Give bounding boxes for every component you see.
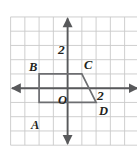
vertex-label-a: A — [30, 118, 39, 132]
figure-canvas: 2 2 O A B C D — [0, 0, 137, 163]
vertex-label-d: D — [98, 104, 108, 118]
vertex-label-b: B — [28, 60, 37, 74]
coordinate-plane-figure: 2 2 O A B C D — [0, 0, 137, 163]
vertex-label-c: C — [84, 58, 93, 72]
y-axis-tick-label-2: 2 — [57, 42, 65, 57]
origin-label-o: O — [58, 93, 67, 107]
x-axis-tick-label-2: 2 — [96, 88, 104, 103]
